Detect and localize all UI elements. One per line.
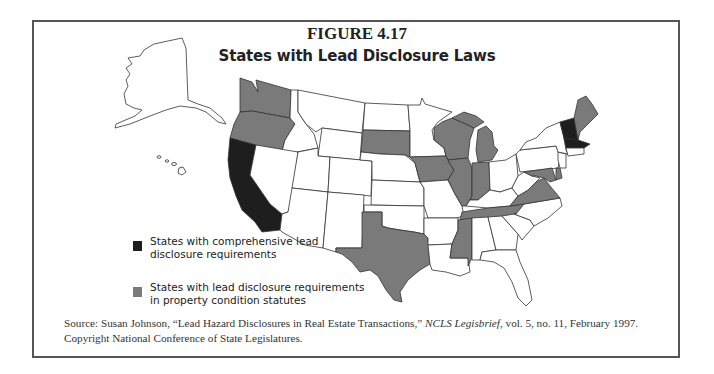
state-colorado: [328, 157, 372, 196]
legend-swatch-property-condition: [133, 287, 142, 297]
state-delaware: [556, 168, 562, 180]
state-michigan: [476, 126, 498, 162]
source-citation: Source: Susan Johnson, “Lead Hazard Disc…: [64, 316, 664, 346]
state-alaska: [115, 38, 226, 128]
state-hawaii: [157, 156, 186, 175]
legend-label-property-condition: States with lead disclosure requirements…: [150, 281, 370, 307]
state-north-dakota: [363, 103, 410, 131]
legend-swatch-comprehensive: [133, 241, 142, 251]
state-connecticut-rhode-island: [566, 148, 584, 156]
state-wyoming: [318, 128, 362, 160]
source-prefix: Source: Susan Johnson, “Lead Hazard Disc…: [64, 317, 425, 329]
state-florida: [480, 250, 532, 306]
source-publication: NCLS Legisbrief: [425, 317, 500, 329]
state-new-jersey: [558, 152, 566, 168]
state-kansas: [371, 180, 424, 206]
legend-label-comprehensive: States with comprehensive lead disclosur…: [150, 235, 370, 261]
state-maine: [574, 96, 598, 140]
state-massachusetts: [564, 138, 590, 148]
